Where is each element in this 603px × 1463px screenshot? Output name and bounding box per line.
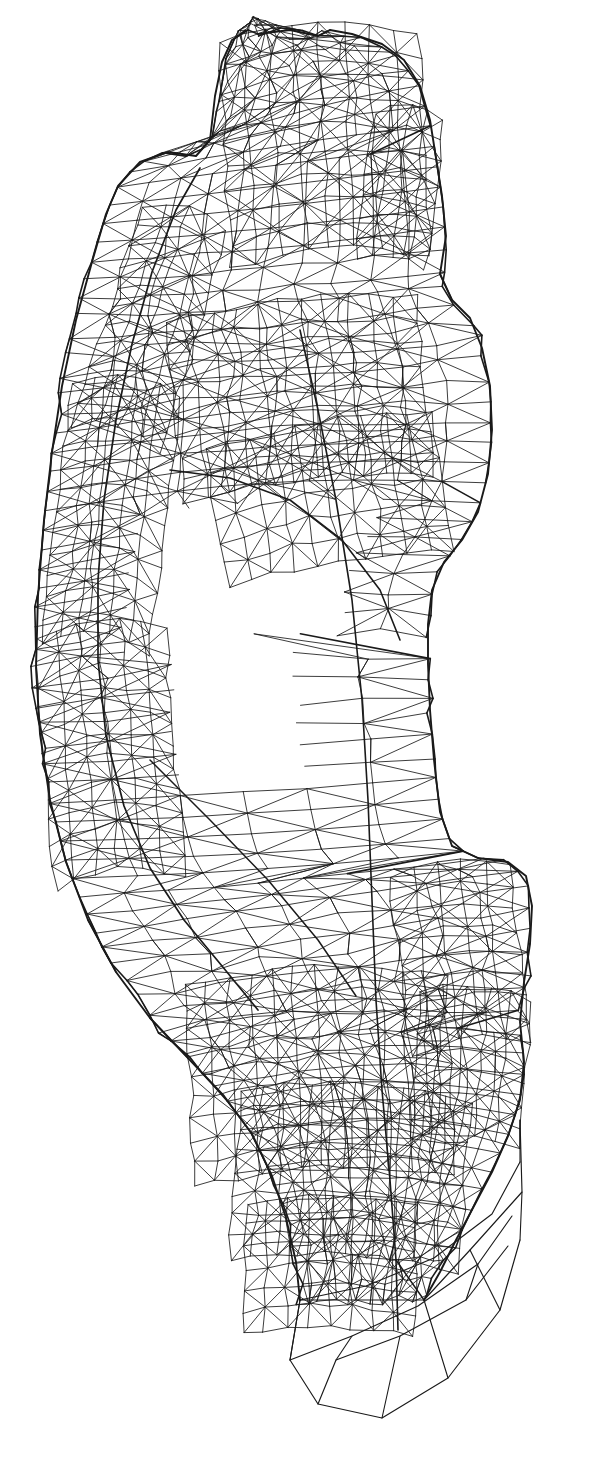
wireframe-figure-root [0,0,603,1463]
wireframe-mesh-canvas [0,0,603,1463]
